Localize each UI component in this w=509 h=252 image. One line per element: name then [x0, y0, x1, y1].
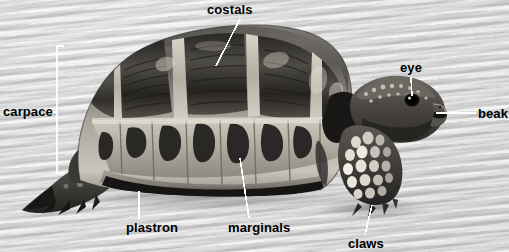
label-eye: eye	[400, 61, 422, 74]
label-plastron: plastron	[126, 221, 178, 234]
anatomy-figure: costals carpace eye beak plastron margin…	[0, 0, 509, 252]
label-marginals: marginals	[228, 221, 290, 234]
tortoise-illustration	[0, 0, 509, 252]
carapace	[77, 25, 352, 199]
label-carpace: carpace	[3, 105, 53, 118]
label-costals: costals	[207, 3, 253, 16]
label-claws: claws	[348, 237, 384, 250]
label-beak: beak	[478, 107, 508, 120]
